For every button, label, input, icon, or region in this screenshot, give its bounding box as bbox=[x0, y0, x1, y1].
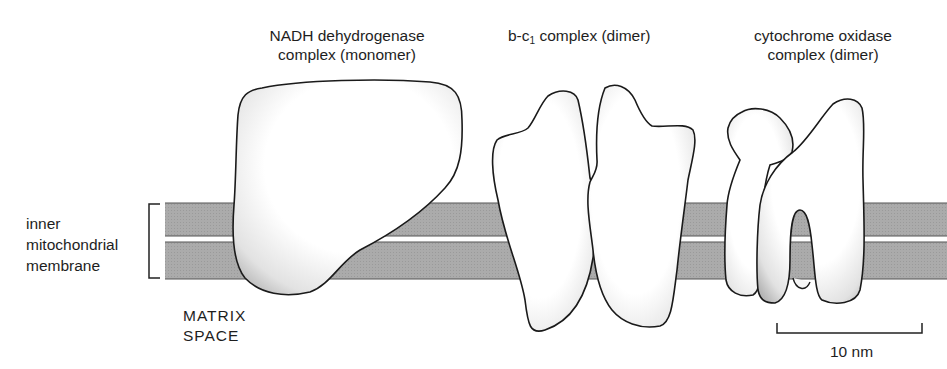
electron-transport-diagram: NADH dehydrogenase complex (monomer) b-c… bbox=[0, 0, 947, 369]
matrix-label-line2: SPACE bbox=[183, 326, 246, 346]
scale-bar bbox=[777, 323, 922, 333]
scale-bar-label: 10 nm bbox=[830, 342, 873, 361]
nadh-complex-label: NADH dehydrogenase complex (monomer) bbox=[232, 26, 462, 64]
cox-label-line1: cytochrome oxidase bbox=[708, 26, 938, 45]
cox-label-line2: complex (dimer) bbox=[708, 45, 938, 64]
bc1-label-suffix: complex (dimer) bbox=[535, 27, 650, 44]
bc1-complex-label: b-c1 complex (dimer) bbox=[508, 26, 651, 50]
bc1-label-prefix: b-c bbox=[508, 27, 530, 44]
membrane-label-line2: mitochondrial bbox=[26, 234, 118, 255]
bc1-monomer-left-shape bbox=[493, 91, 596, 331]
matrix-label-line1: MATRIX bbox=[183, 306, 246, 326]
membrane-label-line3: membrane bbox=[26, 255, 118, 276]
membrane-bracket bbox=[149, 204, 160, 278]
membrane-label: inner mitochondrial membrane bbox=[26, 213, 118, 276]
bc1-monomer-right-shape bbox=[588, 85, 695, 327]
nadh-label-line1: NADH dehydrogenase bbox=[232, 26, 462, 45]
matrix-space-label: MATRIX SPACE bbox=[183, 306, 246, 346]
nadh-label-line2: complex (monomer) bbox=[232, 45, 462, 64]
cytochrome-oxidase-label: cytochrome oxidase complex (dimer) bbox=[708, 26, 938, 64]
membrane-label-line1: inner bbox=[26, 213, 118, 234]
